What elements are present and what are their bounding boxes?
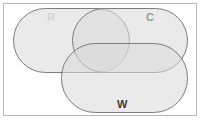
venn-diagram-figure: R C W xyxy=(0,0,202,121)
venn-diagram-canvas xyxy=(0,0,202,121)
set-label-r: R xyxy=(47,12,55,23)
set-label-c: C xyxy=(146,12,154,23)
set-label-w: W xyxy=(117,99,128,110)
